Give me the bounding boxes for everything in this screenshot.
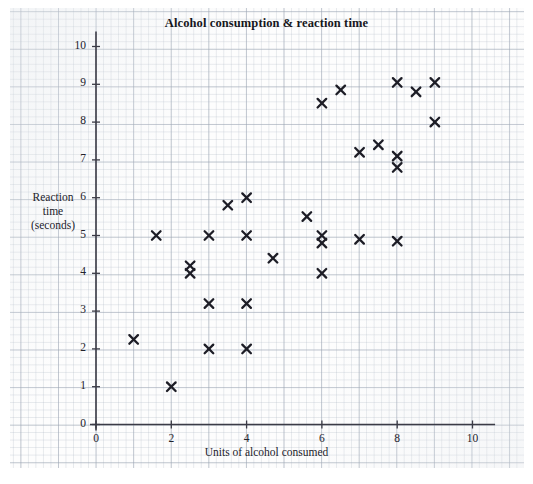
data-point-marker — [269, 254, 278, 263]
data-point-marker — [318, 239, 327, 248]
scatter-plot-screenshot: Alcohol consumption & reaction time Unit… — [0, 0, 533, 484]
y-tick-label-2: 2 — [64, 341, 86, 353]
y-tick-label-5: 5 — [64, 228, 86, 240]
x-tick-label-4: 4 — [236, 432, 258, 444]
x-tick-label-6: 6 — [311, 432, 333, 444]
data-point-marker — [318, 269, 327, 278]
y-tick-label-1: 1 — [64, 379, 86, 391]
x-tick-label-2: 2 — [160, 432, 182, 444]
data-point-marker — [242, 231, 251, 240]
y-axis-label-line-2: time — [16, 204, 90, 218]
axes-group — [90, 31, 495, 430]
y-tick-label-10: 10 — [64, 39, 86, 51]
x-tick-label-10: 10 — [462, 432, 484, 444]
y-tick-label-4: 4 — [64, 265, 86, 277]
y-tick-label-9: 9 — [64, 76, 86, 88]
data-point-marker — [303, 212, 312, 221]
data-point-marker — [129, 335, 138, 344]
data-point-marker — [167, 382, 176, 391]
data-point-marker — [242, 299, 251, 308]
x-tick-label-0: 0 — [85, 432, 107, 444]
data-point-marker — [242, 193, 251, 202]
data-point-marker — [374, 140, 383, 149]
plot-area — [0, 0, 533, 484]
y-tick-label-0: 0 — [64, 417, 86, 429]
y-tick-label-7: 7 — [64, 152, 86, 164]
y-tick-label-3: 3 — [64, 303, 86, 315]
x-axis-label: Units of alcohol consumed — [0, 446, 533, 458]
data-point-marker — [205, 299, 214, 308]
data-point-marker — [205, 345, 214, 354]
data-point-marker — [205, 231, 214, 240]
data-point-marker — [431, 118, 440, 127]
data-point-marker — [393, 237, 402, 246]
x-tick-label-8: 8 — [386, 432, 408, 444]
data-point-marker — [431, 78, 440, 87]
data-point-marker — [336, 86, 345, 95]
data-points-group — [129, 78, 439, 391]
data-point-marker — [186, 269, 195, 278]
chart-title: Alcohol consumption & reaction time — [0, 16, 533, 31]
data-point-marker — [318, 99, 327, 108]
y-tick-label-8: 8 — [64, 114, 86, 126]
data-point-marker — [355, 235, 364, 244]
data-point-marker — [393, 163, 402, 172]
data-point-marker — [223, 201, 232, 210]
data-point-marker — [355, 148, 364, 157]
axis-ticks-group — [92, 47, 473, 429]
data-point-marker — [242, 345, 251, 354]
y-tick-label-6: 6 — [64, 190, 86, 202]
data-point-marker — [393, 152, 402, 161]
data-point-marker — [152, 231, 161, 240]
data-point-marker — [412, 88, 421, 97]
data-point-marker — [393, 78, 402, 87]
